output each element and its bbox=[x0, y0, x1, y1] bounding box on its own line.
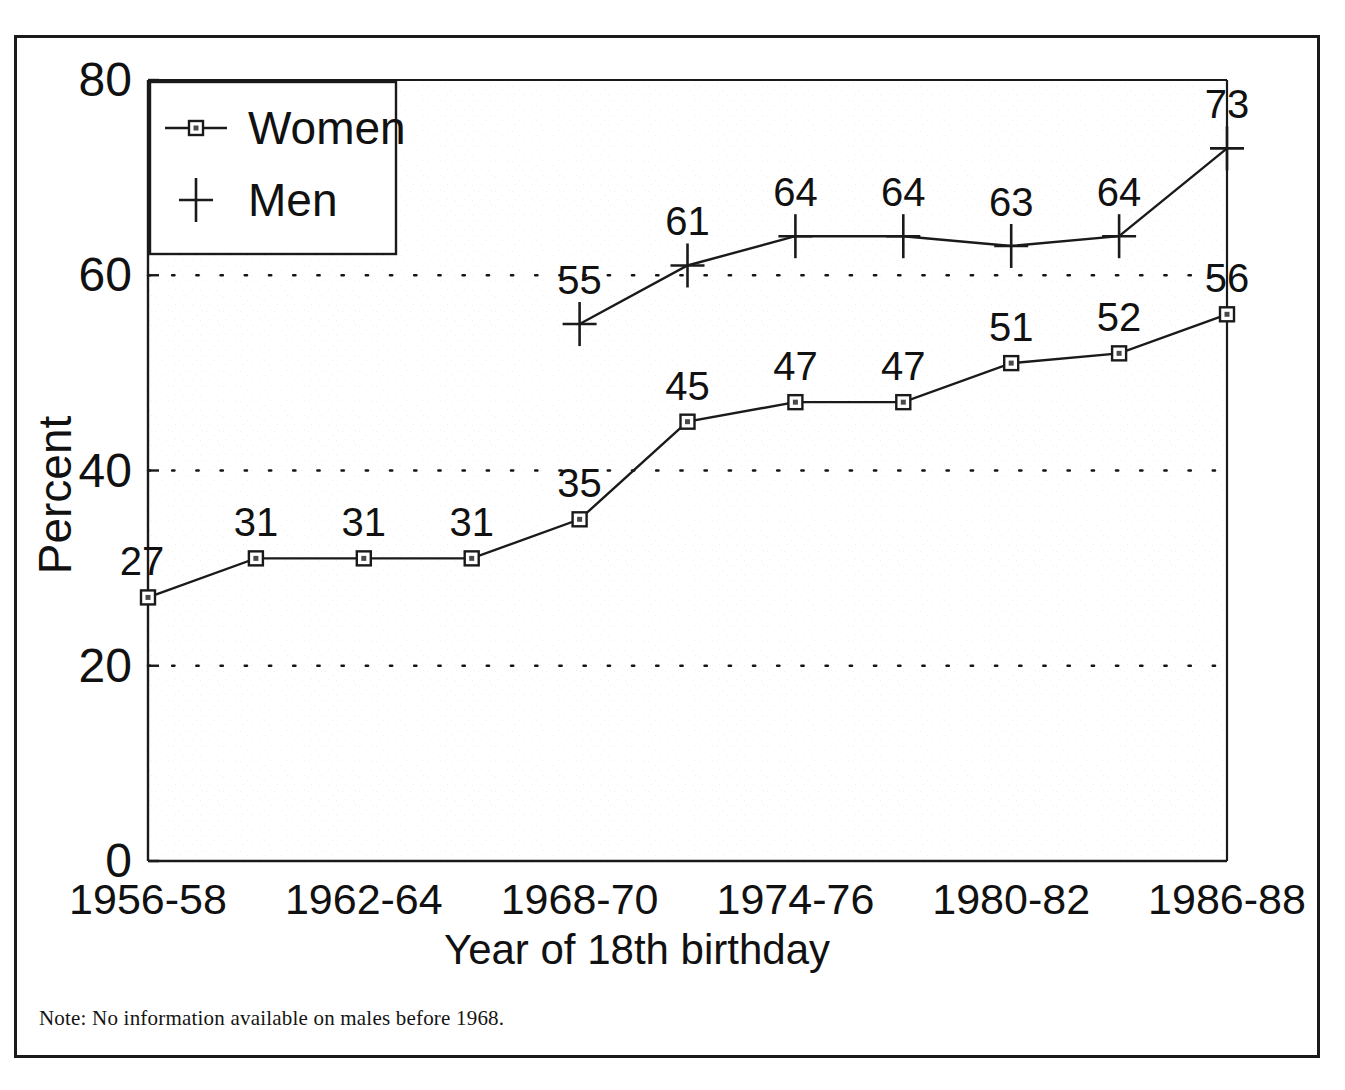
data-label: 45 bbox=[665, 364, 710, 408]
data-label: 64 bbox=[773, 170, 818, 214]
y-tick-label: 80 bbox=[79, 53, 132, 106]
data-label: 64 bbox=[881, 170, 926, 214]
data-label: 47 bbox=[881, 344, 926, 388]
x-axis-title: Year of 18th birthday bbox=[17, 926, 1257, 974]
data-label: 47 bbox=[773, 344, 818, 388]
legend-label-women: Women bbox=[248, 102, 406, 154]
x-axis-ticks: 1956-581962-641968-701974-761980-821986-… bbox=[69, 875, 1306, 923]
data-label: 31 bbox=[449, 500, 494, 544]
x-tick-label: 1974-76 bbox=[716, 875, 874, 923]
data-label: 31 bbox=[234, 500, 279, 544]
data-label: 35 bbox=[557, 461, 602, 505]
x-tick-label: 1956-58 bbox=[69, 875, 227, 923]
data-label: 61 bbox=[665, 199, 710, 243]
y-axis-title: Percent bbox=[28, 315, 82, 675]
data-label: 51 bbox=[989, 305, 1034, 349]
data-label: 31 bbox=[342, 500, 387, 544]
chart-note: Note: No information available on males … bbox=[39, 1006, 504, 1031]
y-tick-label: 40 bbox=[79, 444, 132, 497]
figure-frame: 0204060801956-581962-641968-701974-76198… bbox=[14, 35, 1320, 1058]
chart-plot-area: 0204060801956-581962-641968-701974-76198… bbox=[17, 38, 1323, 1061]
x-tick-label: 1980-82 bbox=[932, 875, 1090, 923]
data-label: 73 bbox=[1205, 82, 1250, 126]
data-label: 64 bbox=[1097, 170, 1142, 214]
x-tick-label: 1962-64 bbox=[285, 875, 443, 923]
line-chart: 0204060801956-581962-641968-701974-76198… bbox=[17, 38, 1323, 1061]
data-label: 52 bbox=[1097, 295, 1142, 339]
data-label: 56 bbox=[1205, 256, 1250, 300]
y-tick-label: 20 bbox=[79, 639, 132, 692]
data-label: 27 bbox=[120, 539, 165, 583]
legend-label-men: Men bbox=[248, 174, 337, 226]
legend: WomenMen bbox=[150, 82, 406, 254]
x-tick-label: 1968-70 bbox=[501, 875, 659, 923]
x-tick-label: 1986-88 bbox=[1148, 875, 1306, 923]
data-label: 63 bbox=[989, 180, 1034, 224]
y-tick-label: 60 bbox=[79, 248, 132, 301]
data-label: 55 bbox=[557, 258, 602, 302]
